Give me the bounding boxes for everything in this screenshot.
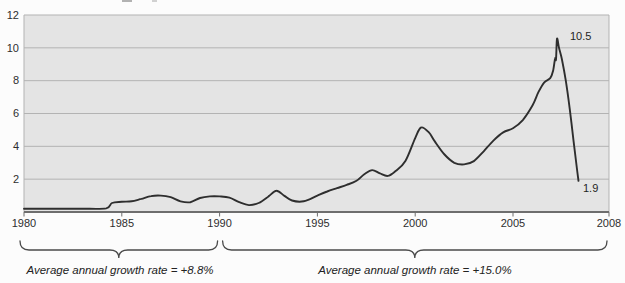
- x-tick-label: 1995: [305, 217, 329, 229]
- y-tick-label: 10: [7, 42, 19, 54]
- y-tick-label: 2: [13, 173, 19, 185]
- y-axis: 24681012: [7, 9, 19, 185]
- end-value-label: 1.9: [583, 182, 598, 194]
- brace-1990-2008: [223, 241, 607, 258]
- brace-1980-1990: [20, 241, 218, 258]
- y-tick-label: 12: [7, 9, 19, 21]
- x-tick-label: 1990: [207, 217, 231, 229]
- x-tick-label: 1980: [12, 217, 36, 229]
- x-tick-label: 2008: [597, 217, 621, 229]
- y-tick-label: 8: [13, 74, 19, 86]
- chart-canvas: 24681012 1980198519901995200020052008 10…: [0, 0, 625, 283]
- growth-annotation-left: Average annual growth rate = +8.8%: [25, 264, 213, 276]
- x-axis: 1980198519901995200020052008: [12, 217, 621, 229]
- x-tick-label: 1985: [110, 217, 134, 229]
- plot-area: [24, 15, 609, 217]
- x-tick-label: 2005: [501, 217, 525, 229]
- growth-annotation-right: Average annual growth rate = +15.0%: [317, 264, 512, 276]
- x-tick-label: 2000: [403, 217, 427, 229]
- figure: 24681012 1980198519901995200020052008 10…: [0, 0, 625, 283]
- y-tick-label: 4: [13, 140, 19, 152]
- peak-value-label: 10.5: [570, 30, 591, 42]
- y-tick-label: 6: [13, 107, 19, 119]
